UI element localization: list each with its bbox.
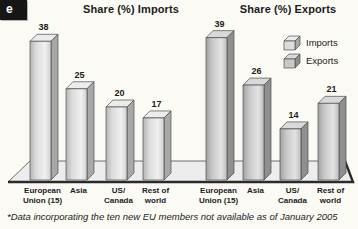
bar-side-face (227, 31, 234, 180)
bar-exports-rest-of-world: 21Rest ofworld (317, 84, 346, 205)
bar-imports-asia: 25Asia (66, 70, 94, 195)
imports-cube-icon (283, 34, 302, 51)
legend-label-exports: Exports (306, 55, 338, 66)
category-label: European (24, 186, 61, 195)
bar-front-face (318, 103, 339, 180)
exports-cube-icon (283, 52, 302, 69)
category-label: Rest of (142, 186, 169, 195)
bar-side-face (339, 96, 346, 180)
bar-exports-us-canada: 14US/Canada (278, 110, 308, 205)
chart-legend: Imports Exports (283, 33, 338, 69)
legend-item-exports: Exports (283, 51, 338, 69)
bar-imports-us-canada: 20US/Canada (104, 88, 134, 205)
figure-page: e Share (%) Imports Share (%) Exports 38… (0, 0, 358, 229)
category-label: US/ (286, 186, 300, 195)
category-label: Canada (104, 196, 133, 205)
cube-front-face (284, 59, 295, 68)
bar-front-face (30, 41, 51, 180)
legend-label-imports: Imports (306, 37, 338, 48)
value-label: 25 (74, 70, 84, 80)
bar-side-face (87, 82, 94, 180)
value-label: 21 (326, 84, 336, 94)
bar-side-face (51, 34, 58, 180)
value-label: 20 (114, 88, 124, 98)
bar-side-face (127, 100, 134, 180)
legend-item-imports: Imports (283, 33, 338, 51)
bar-front-face (143, 118, 164, 180)
bar-side-face (264, 78, 271, 180)
category-label: US/ (112, 186, 126, 195)
category-label: Union (15) (199, 196, 238, 205)
category-label: European (200, 186, 237, 195)
category-label: Union (15) (23, 196, 62, 205)
value-label: 14 (288, 110, 298, 120)
bar-side-face (301, 122, 308, 180)
value-label: 26 (251, 66, 261, 76)
bar-exports-asia: 26Asia (243, 66, 271, 195)
value-label: 38 (38, 22, 48, 32)
bar-front-face (106, 107, 127, 180)
value-label: 39 (214, 19, 224, 29)
category-label: Rest of (317, 186, 344, 195)
value-label: 17 (151, 99, 161, 109)
category-label: Canada (278, 196, 307, 205)
footnote: *Data incorporating the ten new EU membe… (7, 211, 338, 222)
bar-front-face (66, 89, 87, 180)
bar-imports-rest-of-world: 17Rest ofworld (142, 99, 171, 205)
bar-front-face (243, 85, 264, 180)
category-label: world (144, 196, 166, 205)
bar-front-face (206, 38, 227, 180)
category-label: world (319, 196, 341, 205)
bar-front-face (280, 129, 301, 180)
category-label: Asia (70, 186, 87, 195)
cube-front-face (284, 41, 295, 50)
bar-side-face (164, 111, 171, 180)
category-label: Asia (247, 186, 264, 195)
